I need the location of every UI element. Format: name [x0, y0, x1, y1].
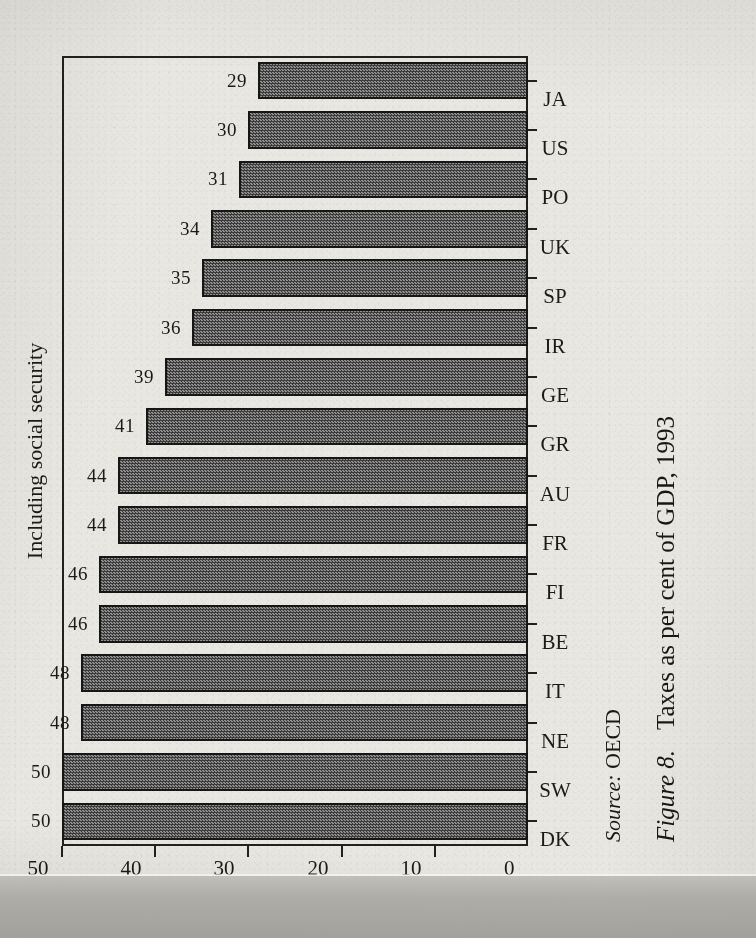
bar-series: [62, 56, 528, 846]
bar-value-label: 39: [128, 366, 160, 388]
bar-value-label: 34: [174, 218, 206, 240]
x-axis-label-it: IT: [535, 679, 575, 704]
x-axis-label-ne: NE: [535, 729, 575, 754]
y-axis-tick: [434, 846, 436, 857]
bar-value-label: 50: [25, 761, 57, 783]
source-value: OECD: [600, 709, 625, 769]
x-axis-tick: [528, 80, 537, 82]
bar-value-label: 48: [44, 712, 76, 734]
x-axis-tick: [528, 129, 537, 131]
bar-ir: [192, 309, 528, 347]
x-axis-tick: [528, 277, 537, 279]
bar-be: [99, 605, 528, 643]
bar-au: [118, 457, 528, 495]
y-axis-tick: [247, 846, 249, 857]
scanned-book-page: Including social security DKSWNEITBEFIFR…: [0, 0, 756, 938]
x-axis-label-gr: GR: [535, 432, 575, 457]
bar-value-label: 50: [25, 810, 57, 832]
x-axis-tick: [528, 524, 537, 526]
bar-value-label: 46: [62, 613, 94, 635]
x-axis-tick: [528, 425, 537, 427]
x-axis-tick: [528, 820, 537, 822]
bar-fr: [118, 506, 528, 544]
x-axis-label-sw: SW: [535, 778, 575, 803]
bar-value-label: 46: [62, 563, 94, 585]
bar-uk: [211, 210, 528, 248]
y-axis-tick: [341, 846, 343, 857]
y-axis-tick: [61, 846, 63, 857]
bar-value-label: 35: [165, 267, 197, 289]
page-bottom-edge: [0, 876, 756, 938]
x-axis-tick: [528, 178, 537, 180]
rotated-chart-stage: Including social security DKSWNEITBEFIFR…: [0, 0, 756, 938]
x-axis-tick: [528, 228, 537, 230]
x-axis-tick: [528, 573, 537, 575]
x-axis-tick: [528, 327, 537, 329]
bar-dk: [62, 803, 528, 841]
bar-sp: [202, 259, 528, 297]
x-axis-label-ja: JA: [535, 87, 575, 112]
x-axis-label-uk: UK: [535, 235, 575, 260]
figure-number: Figure 8.: [652, 750, 679, 842]
bar-value-label: 44: [81, 514, 113, 536]
bar-ne: [81, 704, 528, 742]
figure-caption: Figure 8. Taxes as per cent of GDP, 1993: [652, 416, 680, 842]
bar-value-label: 30: [211, 119, 243, 141]
x-axis-label-ir: IR: [535, 334, 575, 359]
x-axis-tick: [528, 771, 537, 773]
bar-ja: [258, 62, 528, 100]
bar-value-label: 36: [155, 317, 187, 339]
x-axis-label-dk: DK: [535, 827, 575, 852]
x-axis-label-fi: FI: [535, 580, 575, 605]
source-label: Source:: [600, 774, 625, 842]
bar-value-label: 44: [81, 465, 113, 487]
bar-value-label: 48: [44, 662, 76, 684]
y-axis-tick: [154, 846, 156, 857]
x-axis-label-ge: GE: [535, 383, 575, 408]
x-axis-tick: [528, 672, 537, 674]
x-axis-label-be: BE: [535, 630, 575, 655]
bar-value-label: 31: [202, 168, 234, 190]
figure-caption-text: Taxes as per cent of GDP, 1993: [652, 416, 679, 730]
bar-gr: [146, 408, 528, 446]
source-note: Source: OECD: [600, 709, 626, 842]
bar-po: [239, 161, 528, 199]
x-axis-tick: [528, 623, 537, 625]
bar-value-label: 29: [221, 70, 253, 92]
bar-it: [81, 654, 528, 692]
x-axis-label-sp: SP: [535, 284, 575, 309]
x-axis-tick: [528, 475, 537, 477]
bar-us: [248, 111, 528, 149]
x-axis-label-au: AU: [535, 482, 575, 507]
x-axis-label-us: US: [535, 136, 575, 161]
bar-fi: [99, 556, 528, 594]
bar-value-label: 41: [109, 415, 141, 437]
x-axis-tick: [528, 376, 537, 378]
bar-sw: [62, 753, 528, 791]
x-axis-label-po: PO: [535, 185, 575, 210]
bar-ge: [165, 358, 528, 396]
x-axis-tick: [528, 722, 537, 724]
x-axis-label-fr: FR: [535, 531, 575, 556]
